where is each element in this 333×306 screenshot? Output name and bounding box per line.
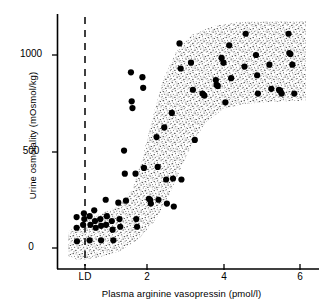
data-point	[140, 85, 146, 91]
data-point	[215, 83, 221, 89]
data-point	[266, 62, 272, 68]
data-point	[139, 74, 145, 80]
data-point	[122, 171, 128, 177]
data-point	[87, 237, 93, 243]
data-point	[109, 227, 115, 233]
data-point	[255, 91, 261, 97]
data-point	[153, 134, 159, 140]
x-tick-label-6: 6	[286, 271, 314, 282]
data-point	[171, 203, 177, 209]
data-point	[129, 98, 135, 104]
data-point	[222, 99, 228, 105]
data-point	[289, 62, 295, 68]
data-point	[155, 197, 161, 203]
data-point	[169, 110, 175, 116]
data-point	[178, 176, 184, 182]
x-axis-title: Plasma arginine vasopressin (pmol/l)	[0, 288, 333, 299]
data-point	[115, 200, 121, 206]
data-point	[253, 52, 259, 58]
data-point	[164, 201, 170, 207]
data-point	[241, 63, 247, 69]
x-tick-label-ld: LD	[71, 271, 99, 282]
data-point	[254, 72, 260, 78]
data-point	[121, 147, 127, 153]
data-point	[93, 225, 99, 231]
data-point	[128, 69, 134, 75]
data-point	[228, 75, 234, 81]
scatter-chart-figure: 1000 500 0 LD 2 4 6 Plasma arginine vaso…	[0, 0, 333, 306]
data-point	[132, 171, 138, 177]
data-point	[98, 237, 104, 243]
data-point	[163, 176, 169, 182]
data-point	[110, 237, 116, 243]
x-tick-label-4: 4	[210, 271, 238, 282]
data-point	[178, 65, 184, 71]
data-point	[129, 105, 135, 111]
data-point	[155, 164, 161, 170]
data-point	[133, 216, 139, 222]
data-point	[176, 40, 182, 46]
data-point	[192, 137, 198, 143]
data-point	[170, 175, 176, 181]
data-point	[103, 222, 109, 228]
data-point	[141, 165, 147, 171]
data-point	[81, 216, 87, 222]
data-point	[279, 91, 285, 97]
chart-canvas	[0, 0, 333, 306]
data-point	[74, 225, 80, 231]
data-point	[134, 224, 140, 230]
data-point	[91, 207, 97, 213]
data-point	[291, 91, 297, 97]
data-point	[104, 213, 110, 219]
data-point	[220, 60, 226, 66]
y-axis-title: Urine osmolality (mOsmol/kg)	[27, 21, 38, 251]
data-point	[161, 124, 167, 130]
data-point	[117, 224, 123, 230]
data-point	[74, 238, 80, 244]
data-point	[226, 42, 232, 48]
data-point	[97, 216, 103, 222]
data-point	[81, 210, 87, 216]
data-point	[123, 198, 129, 204]
data-point	[201, 92, 207, 98]
data-point	[80, 222, 86, 228]
data-point	[103, 197, 109, 203]
x-tick-label-2: 2	[133, 271, 161, 282]
data-point	[74, 214, 80, 220]
data-point	[92, 218, 98, 224]
data-point	[109, 218, 115, 224]
data-point	[87, 213, 93, 219]
data-point	[285, 31, 291, 37]
data-point	[148, 201, 154, 207]
data-point	[268, 86, 274, 92]
data-point	[116, 216, 122, 222]
data-point	[188, 60, 194, 66]
data-point	[190, 87, 196, 93]
data-point	[287, 51, 293, 57]
data-point	[243, 31, 249, 37]
